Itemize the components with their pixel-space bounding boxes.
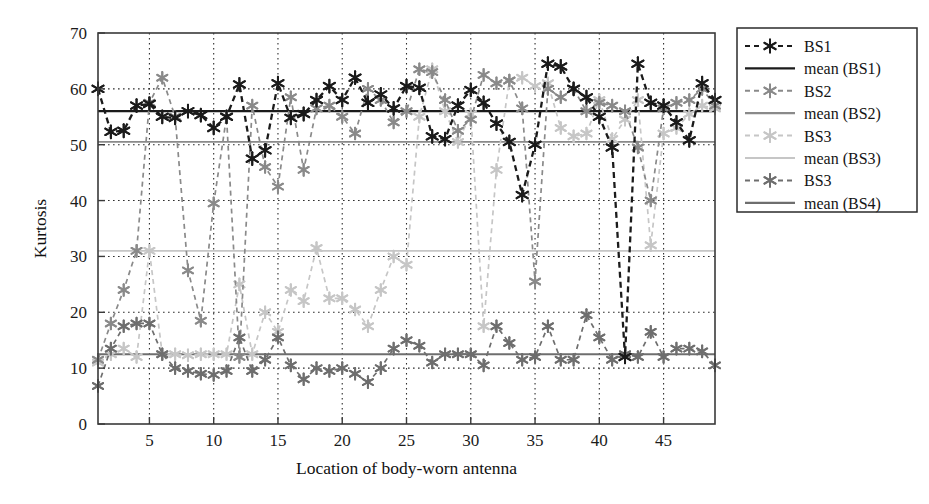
x-tick-label: 45 [655, 431, 672, 450]
y-tick-label: 40 [70, 192, 87, 211]
y-axis-title: Kurtosis [30, 199, 50, 259]
legend-label: BS3 [804, 128, 832, 145]
x-axis-title: Location of body-worn antenna [296, 458, 517, 478]
x-tick-label: 10 [205, 431, 222, 450]
legend-label: mean (BS3) [804, 150, 881, 168]
legend-label: BS1 [804, 38, 832, 55]
x-tick-label: 35 [527, 431, 544, 450]
x-tick-label: 20 [334, 431, 351, 450]
y-tick-label: 60 [70, 80, 87, 99]
y-tick-label: 30 [70, 247, 87, 266]
x-tick-label: 30 [462, 431, 479, 450]
legend-label: BS3 [804, 172, 832, 189]
legend-label: mean (BS2) [804, 105, 881, 123]
legend-label: mean (BS4) [804, 195, 881, 213]
y-tick-label: 0 [79, 415, 88, 434]
y-tick-label: 20 [70, 303, 87, 322]
y-tick-label: 50 [70, 136, 87, 155]
legend-label: BS2 [804, 83, 832, 100]
x-tick-label: 5 [145, 431, 154, 450]
x-tick-label: 15 [269, 431, 286, 450]
legend-label: mean (BS1) [804, 60, 881, 78]
y-tick-label: 70 [70, 24, 87, 43]
kurtosis-chart: 01020304050607051015202530354045Location… [0, 0, 929, 504]
legend: BS1mean (BS1)BS2mean (BS2)BS3mean (BS3)B… [737, 28, 917, 213]
y-tick-label: 10 [70, 359, 87, 378]
x-tick-label: 40 [591, 431, 608, 450]
figure-container: 01020304050607051015202530354045Location… [0, 0, 929, 504]
x-tick-label: 25 [398, 431, 415, 450]
